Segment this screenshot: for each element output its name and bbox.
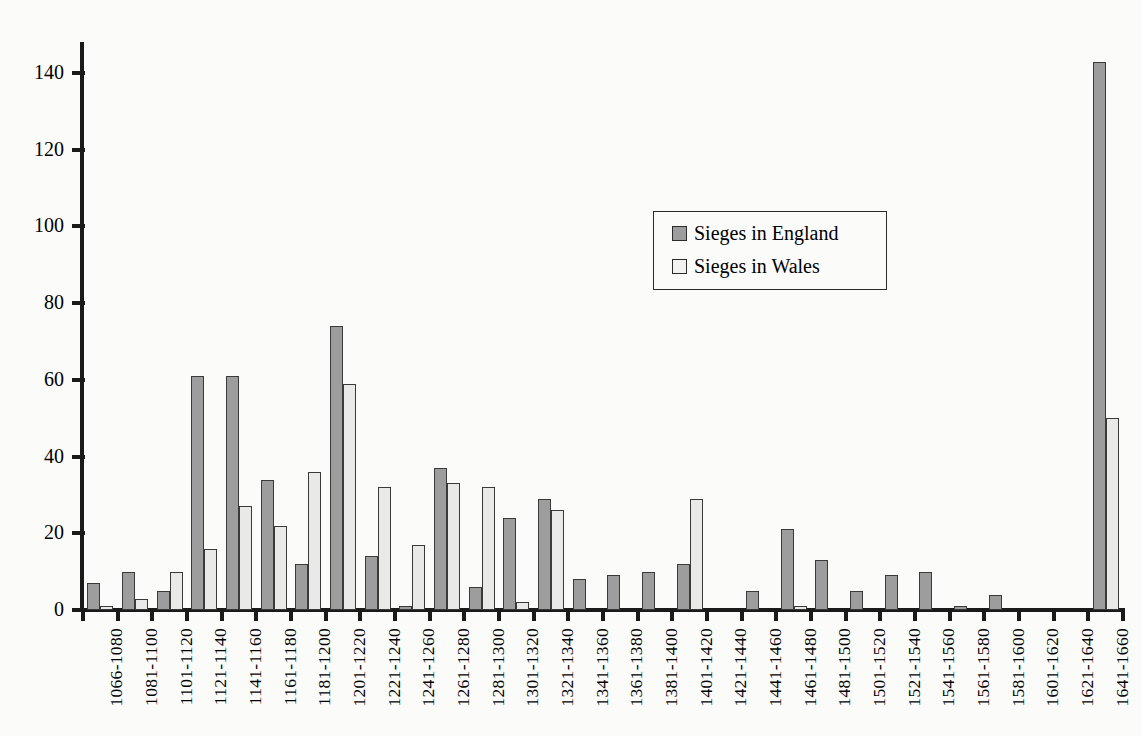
x-axis-tick xyxy=(948,610,952,621)
bar-wales xyxy=(447,483,460,610)
bar-england xyxy=(261,480,274,610)
x-axis-tick-label: 1161-1180 xyxy=(281,628,299,705)
x-axis-tick-label: 1241-1260 xyxy=(419,628,437,707)
bar-england xyxy=(989,595,1002,610)
bar-england xyxy=(503,518,516,610)
bar-wales xyxy=(308,472,321,610)
x-axis-tick-label: 1441-1460 xyxy=(766,628,784,707)
bar-wales xyxy=(412,545,425,610)
x-axis-tick-label: 1581-1600 xyxy=(1009,628,1027,707)
bar-wales xyxy=(1106,418,1119,610)
y-axis-tick-label: 140 xyxy=(34,62,64,82)
x-axis-tick xyxy=(185,610,189,621)
bar-england xyxy=(850,591,863,610)
x-axis-tick-label: 1341-1360 xyxy=(593,628,611,707)
x-axis-tick xyxy=(982,610,986,621)
x-axis-tick-label: 1141-1160 xyxy=(246,628,264,705)
bar-wales xyxy=(343,384,356,610)
legend-swatch-england-icon xyxy=(672,226,687,241)
bar-england xyxy=(191,376,204,610)
x-axis-tick-label: 1461-1480 xyxy=(801,628,819,707)
x-axis-tick xyxy=(1017,610,1021,621)
x-axis-tick-label: 1066-1080 xyxy=(107,628,125,707)
bar-chart: 020406080100120140 1066-10801081-1100110… xyxy=(0,0,1142,736)
x-axis-tick xyxy=(705,610,709,621)
bar-england xyxy=(815,560,828,610)
x-axis-tick xyxy=(878,610,882,621)
y-axis-tick-label: 60 xyxy=(44,369,64,389)
bar-england xyxy=(781,529,794,610)
x-axis-tick xyxy=(358,610,362,621)
x-axis-tick-label: 1381-1400 xyxy=(662,628,680,707)
x-axis-tick-label: 1201-1220 xyxy=(350,628,368,707)
bar-england xyxy=(746,591,759,610)
x-axis-tick xyxy=(289,610,293,621)
x-axis-tick-label: 1261-1280 xyxy=(454,628,472,707)
x-axis-tick xyxy=(150,610,154,621)
x-axis-tick xyxy=(324,610,328,621)
y-axis-tick-label: 0 xyxy=(54,599,64,619)
x-axis-tick-label: 1301-1320 xyxy=(523,628,541,707)
bar-wales xyxy=(551,510,564,610)
x-axis-tick xyxy=(566,610,570,621)
bar-wales xyxy=(516,602,529,610)
legend-label-wales: Sieges in Wales xyxy=(694,255,820,277)
x-axis-tick-label: 1621-1640 xyxy=(1078,628,1096,707)
x-axis-tick-label: 1501-1520 xyxy=(870,628,888,707)
bar-england xyxy=(1093,62,1106,611)
x-axis-tick xyxy=(428,610,432,621)
bar-england xyxy=(157,591,170,610)
x-axis-tick xyxy=(1121,610,1125,621)
x-axis-tick xyxy=(1086,610,1090,621)
x-axis-tick xyxy=(809,610,813,621)
bar-england xyxy=(607,575,620,610)
x-axis-tick xyxy=(636,610,640,621)
bar-wales xyxy=(274,526,287,610)
bar-wales xyxy=(690,499,703,610)
y-axis-tick-label: 120 xyxy=(34,139,64,159)
y-axis-tick-label: 100 xyxy=(34,215,64,235)
x-axis-tick-label: 1401-1420 xyxy=(697,628,715,707)
bar-england xyxy=(885,575,898,610)
x-axis-tick xyxy=(497,610,501,621)
x-axis-tick-label: 1081-1100 xyxy=(142,628,160,706)
bar-england xyxy=(538,499,551,610)
bar-wales xyxy=(239,506,252,610)
x-axis-tick xyxy=(601,610,605,621)
x-axis-tick-label: 1281-1300 xyxy=(489,628,507,707)
chart-legend: Sieges in England Sieges in Wales xyxy=(653,211,887,290)
legend-item-wales: Sieges in Wales xyxy=(672,255,820,277)
bar-england xyxy=(295,564,308,610)
legend-label-england: Sieges in England xyxy=(694,222,838,244)
x-axis-tick-label: 1321-1340 xyxy=(558,628,576,707)
bar-england xyxy=(919,572,932,610)
x-axis-tick xyxy=(844,610,848,621)
bar-wales xyxy=(378,487,391,610)
x-axis-tick xyxy=(81,610,85,621)
x-axis-tick xyxy=(532,610,536,621)
y-axis-tick-label: 80 xyxy=(44,292,64,312)
x-axis-tick-label: 1481-1500 xyxy=(835,628,853,707)
x-axis-tick xyxy=(774,610,778,621)
x-axis-tick-label: 1121-1140 xyxy=(211,628,229,705)
x-axis-tick xyxy=(1052,610,1056,621)
bar-england xyxy=(399,606,412,610)
x-axis-tick-label: 1641-1660 xyxy=(1113,628,1131,707)
bar-england xyxy=(954,606,967,610)
bar-england xyxy=(677,564,690,610)
x-axis-tick xyxy=(220,610,224,621)
x-axis-tick-label: 1601-1620 xyxy=(1043,628,1061,707)
x-axis-tick xyxy=(393,610,397,621)
bar-england xyxy=(573,579,586,610)
legend-swatch-wales-icon xyxy=(672,259,687,274)
bar-wales xyxy=(170,572,183,610)
x-axis-tick-label: 1421-1440 xyxy=(731,628,749,707)
legend-item-england: Sieges in England xyxy=(672,222,838,244)
bar-wales xyxy=(482,487,495,610)
x-axis-tick-label: 1181-1200 xyxy=(315,628,333,706)
bar-england xyxy=(87,583,100,610)
bar-wales xyxy=(100,606,113,610)
bar-england xyxy=(330,326,343,610)
bar-england xyxy=(226,376,239,610)
x-axis-tick xyxy=(740,610,744,621)
